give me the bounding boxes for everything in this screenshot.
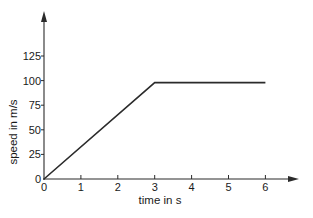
y-axis-arrow-icon xyxy=(41,11,47,22)
speed-line xyxy=(44,83,265,179)
data-series xyxy=(44,83,265,179)
x-tick-label: 0 xyxy=(41,181,47,193)
x-axis-arrow-icon xyxy=(288,176,299,182)
x-tick-label: 1 xyxy=(78,181,84,193)
speed-time-chart: 0123456 0255075100125 time in s speed in… xyxy=(0,0,313,218)
x-tick-label: 2 xyxy=(115,181,121,193)
x-tick-label: 6 xyxy=(262,181,268,193)
y-tick-label: 75 xyxy=(29,99,41,111)
y-tick-label: 100 xyxy=(23,75,41,87)
y-tick-label: 50 xyxy=(29,124,41,136)
x-axis-label: time in s xyxy=(139,194,182,206)
y-axis-label: speed in m/s xyxy=(7,99,19,164)
y-axis-ticks: 0255075100125 xyxy=(23,50,44,185)
y-tick-label: 25 xyxy=(29,148,41,160)
y-tick-label: 0 xyxy=(35,173,41,185)
axes xyxy=(41,11,299,182)
x-tick-label: 5 xyxy=(225,181,231,193)
x-axis-ticks: 0123456 xyxy=(41,175,269,193)
x-tick-label: 3 xyxy=(152,181,158,193)
y-tick-label: 125 xyxy=(23,50,41,62)
x-tick-label: 4 xyxy=(189,181,195,193)
